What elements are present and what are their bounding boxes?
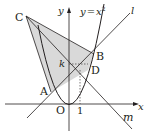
y-axis-label: y — [57, 5, 64, 16]
point-label-B: B — [96, 50, 104, 63]
line-label-m: m — [123, 111, 133, 124]
point-label-D: D — [91, 64, 100, 77]
curve-label-lhs: y — [79, 6, 86, 17]
k-label: k — [59, 58, 65, 69]
curve-label: y=x2 — [79, 5, 106, 17]
curve-label-sup: 2 — [102, 5, 106, 12]
origin-label: O — [56, 104, 65, 117]
y-axis-arrow-icon — [67, 7, 71, 13]
line-label-l: l — [131, 5, 134, 16]
point-label-A: A — [39, 85, 49, 98]
x-axis-label: x — [138, 101, 144, 112]
tick-label-1: 1 — [77, 105, 83, 116]
curve-label-eq: = — [87, 6, 95, 17]
point-label-C: C — [15, 11, 23, 24]
diagram-canvas: C B D A O 1 k y x l m y=x2 — [0, 0, 148, 133]
